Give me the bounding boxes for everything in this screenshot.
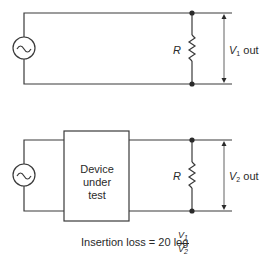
resistor-icon [189, 35, 195, 61]
circuit-diagram [0, 0, 267, 264]
circuit-1 [13, 13, 232, 84]
v2-out-label: V2 out [229, 170, 259, 186]
device-under-test-label: Device under test [64, 163, 130, 202]
insertion-loss-formula: Insertion loss = 20 log [81, 236, 188, 248]
voltage-ratio-fraction: V1 V2 [177, 230, 189, 257]
resistor-label-1: R [173, 44, 181, 56]
resistor-label-2: R [173, 170, 181, 182]
resistor-icon [189, 162, 195, 188]
v1-out-label: V1 out [229, 44, 259, 60]
